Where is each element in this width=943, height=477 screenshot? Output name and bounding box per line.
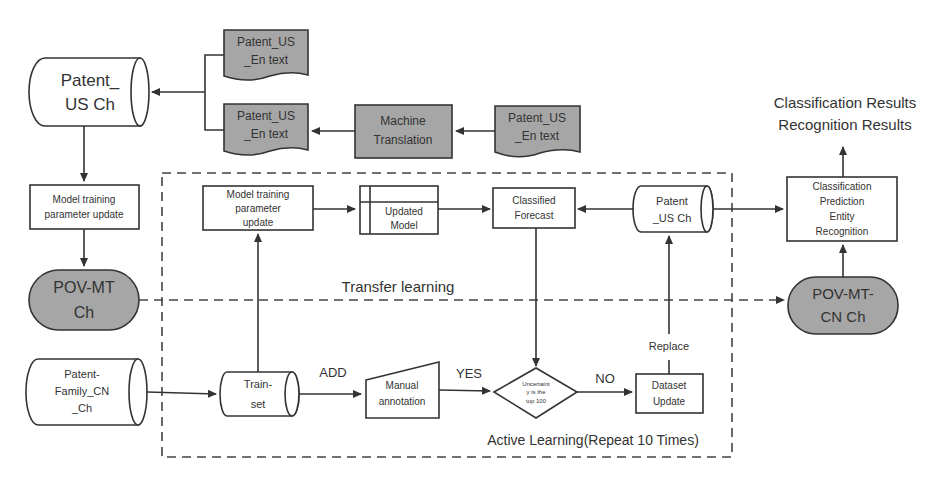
doc-mid-line2: _En text xyxy=(243,127,289,141)
doc-right-line2: _En text xyxy=(514,129,560,143)
ud-line3: top 100 xyxy=(526,398,547,404)
patent-us-en-text-top-doc: Patent_US _En text xyxy=(224,30,308,80)
povcn-line1: POV-MT- xyxy=(812,285,874,302)
mti-line3: update xyxy=(243,217,274,228)
patent-us-ch-left-line2: US Ch xyxy=(65,95,115,114)
um-line2: Model xyxy=(390,220,417,231)
model-training-left-box: Model training parameter update xyxy=(30,185,139,229)
doc-top-line2: _En text xyxy=(243,53,289,67)
doc-mid-line1: Patent_US xyxy=(237,109,295,123)
mtl-line1: Model training xyxy=(53,194,116,205)
pov-mt-cn-ch-node: POV-MT- CN Ch xyxy=(788,277,898,334)
cb-line4: Recognition xyxy=(816,226,869,237)
transfer-learning-label: Transfer learning xyxy=(342,278,455,295)
updated-model-box: Updated Model xyxy=(360,186,438,234)
cb-line3: Entity xyxy=(829,211,854,222)
yes-label: YES xyxy=(456,366,482,381)
machine-translation-box: Machine Translation xyxy=(355,105,452,158)
classification-prediction-box: Classification Prediction Entity Recogni… xyxy=(787,177,897,241)
du-line2: Update xyxy=(653,396,686,407)
active-learning-label: Active Learning(Repeat 10 Times) xyxy=(487,432,699,448)
pui-line2: _US Ch xyxy=(652,212,692,224)
doc-right-line1: Patent_US xyxy=(508,111,566,125)
doc-top-line1: Patent_US xyxy=(237,35,295,49)
results-line2: Recognition Results xyxy=(778,116,911,133)
patent-us-ch-inner-cylinder: Patent _US Ch xyxy=(633,186,713,232)
patent-us-ch-left-line1: Patent_ xyxy=(61,71,120,90)
family-to-trainset-arrow xyxy=(147,392,216,394)
mt-line1: Machine xyxy=(380,114,426,128)
ma-line2: annotation xyxy=(379,396,426,407)
manual-to-decision-arrow xyxy=(439,390,490,391)
ud-line1: Uncertaint xyxy=(522,381,550,387)
patent-us-en-text-right-doc: Patent_US _En text xyxy=(495,106,580,157)
pov-line2: Ch xyxy=(74,304,94,321)
flow-diagram: Patent_ US Ch Patent_US _En text Patent_… xyxy=(0,0,943,477)
povcn-line2: CN Ch xyxy=(820,308,865,325)
manual-annotation-node: Manual annotation xyxy=(366,362,439,418)
um-line1: Updated xyxy=(385,206,423,217)
pui-line1: Patent xyxy=(656,195,688,207)
train-set-cylinder: Train- set xyxy=(220,372,299,416)
pf-line2: Family_CN xyxy=(55,385,109,397)
ma-line1: Manual xyxy=(386,380,419,391)
uncertainty-decision-diamond: Uncertaint y is the top 100 xyxy=(494,368,577,418)
cf-line1: Classified xyxy=(512,195,555,206)
docs-bracket xyxy=(205,55,224,130)
cf-line2: Forecast xyxy=(515,210,554,221)
ts-line2: set xyxy=(251,398,266,410)
pf-line3: _Ch xyxy=(71,402,92,414)
pf-line1: Patent- xyxy=(64,368,100,380)
cb-line1: Classification xyxy=(813,181,872,192)
patent-us-en-text-mid-doc: Patent_US _En text xyxy=(224,104,308,155)
dataset-update-box: Dataset Update xyxy=(636,374,703,413)
mti-line1: Model training xyxy=(227,189,290,200)
pov-mt-ch-node: POV-MT Ch xyxy=(29,270,139,330)
mtl-line2: parameter update xyxy=(45,209,124,220)
add-label: ADD xyxy=(319,365,346,380)
patent-us-ch-left-cylinder: Patent_ US Ch xyxy=(29,58,149,126)
pov-line1: POV-MT xyxy=(53,279,115,296)
mti-line2: parameter xyxy=(235,203,281,214)
classified-forecast-box: Classified Forecast xyxy=(493,188,575,228)
cb-line2: Prediction xyxy=(820,196,864,207)
ud-line2: y is the xyxy=(526,389,546,395)
mt-line2: Translation xyxy=(374,133,433,147)
du-line1: Dataset xyxy=(652,380,687,391)
replace-label: Replace xyxy=(649,340,689,352)
results-line1: Classification Results xyxy=(774,94,917,111)
no-label: NO xyxy=(595,371,615,386)
ts-line1: Train- xyxy=(244,378,273,390)
model-training-inner-box: Model training parameter update xyxy=(203,186,313,230)
patent-family-cn-ch-cylinder: Patent- Family_CN _Ch xyxy=(26,359,147,425)
